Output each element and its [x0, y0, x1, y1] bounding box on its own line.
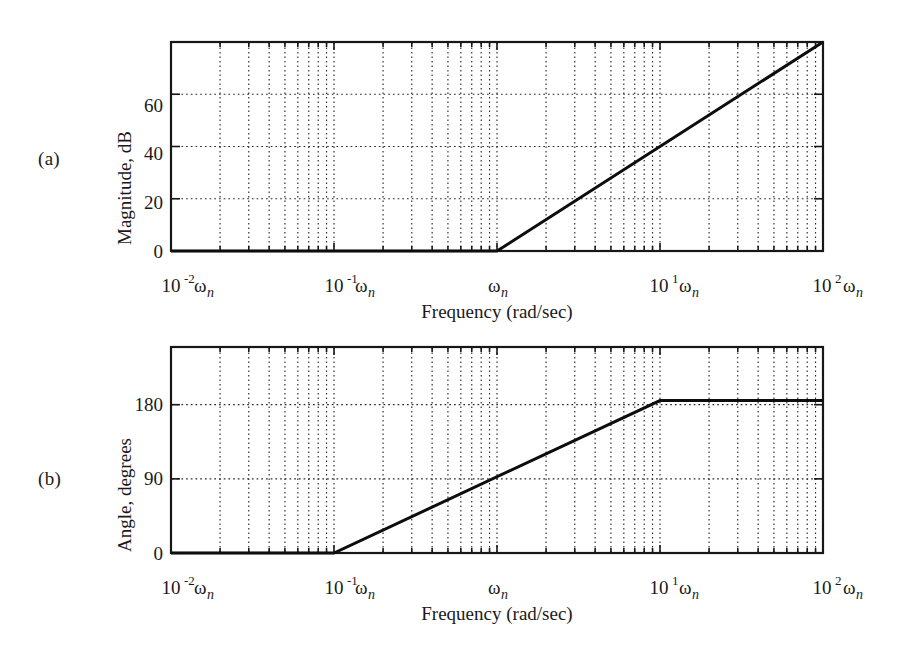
- svg-text:10: 10: [162, 577, 181, 598]
- svg-text:n: n: [856, 587, 863, 602]
- svg-text:ω: ω: [679, 275, 692, 296]
- phase-xtick-label-2: ω n: [488, 577, 508, 602]
- phase-plot-frame: [171, 347, 823, 553]
- magnitude-xtick-label-3: 10 1 ω n: [650, 271, 700, 300]
- svg-text:1: 1: [672, 271, 679, 286]
- svg-text:ω: ω: [355, 577, 368, 598]
- svg-text:ω: ω: [355, 275, 368, 296]
- svg-text:n: n: [368, 587, 375, 602]
- svg-text:n: n: [692, 285, 699, 300]
- svg-text:n: n: [501, 285, 508, 300]
- svg-text:n: n: [207, 587, 214, 602]
- phase-xtick-label-4: 10 2 ω n: [813, 573, 864, 602]
- phase-ytick-90: 90: [144, 468, 163, 489]
- svg-text:ω: ω: [488, 275, 501, 296]
- svg-text:10: 10: [162, 275, 181, 296]
- phase-asymptote-curve: [171, 401, 823, 553]
- magnitude-ytick-20: 20: [144, 192, 163, 213]
- phase-xtick-label-1: 10 -1 ω n: [325, 573, 376, 602]
- phase-tickmarks: [171, 347, 823, 553]
- magnitude-ytick-40: 40: [144, 143, 163, 164]
- phase-ytick-0: 0: [154, 543, 164, 564]
- bode-figure: (a) (b) 0 20 40 60 Magnitude, dB 10 -2 ω…: [0, 0, 898, 652]
- svg-text:10: 10: [813, 577, 832, 598]
- phase-vertical-gridlines: [220, 348, 815, 552]
- magnitude-xtick-label-4: 10 2 ω n: [813, 271, 864, 300]
- svg-text:n: n: [856, 285, 863, 300]
- svg-text:10: 10: [325, 577, 344, 598]
- magnitude-plot: 0 20 40 60 Magnitude, dB 10 -2 ω n 10 -1…: [0, 0, 898, 330]
- svg-text:ω: ω: [679, 577, 692, 598]
- svg-text:ω: ω: [488, 577, 501, 598]
- phase-xaxis-title: Frequency (rad/sec): [421, 603, 572, 625]
- svg-text:2: 2: [835, 573, 842, 588]
- magnitude-ytick-60: 60: [144, 95, 163, 116]
- magnitude-ytick-0: 0: [154, 241, 164, 262]
- phase-xtick-label-3: 10 1 ω n: [650, 573, 700, 602]
- svg-text:10: 10: [650, 577, 669, 598]
- magnitude-xtick-label-0: 10 -2 ω n: [162, 271, 215, 300]
- svg-text:ω: ω: [194, 577, 207, 598]
- phase-xtick-label-0: 10 -2 ω n: [162, 573, 215, 602]
- svg-text:n: n: [501, 587, 508, 602]
- svg-text:n: n: [368, 285, 375, 300]
- svg-text:10: 10: [650, 275, 669, 296]
- phase-ytick-180: 180: [135, 394, 164, 415]
- svg-text:10: 10: [325, 275, 344, 296]
- svg-text:n: n: [207, 285, 214, 300]
- svg-text:ω: ω: [194, 275, 207, 296]
- svg-text:2: 2: [835, 271, 842, 286]
- svg-text:1: 1: [672, 573, 679, 588]
- magnitude-xtick-label-1: 10 -1 ω n: [325, 271, 376, 300]
- magnitude-yaxis-title: Magnitude, dB: [114, 131, 135, 245]
- magnitude-xtick-label-2: ω n: [488, 275, 508, 300]
- svg-text:10: 10: [813, 275, 832, 296]
- phase-yaxis-title: Angle, degrees: [114, 438, 135, 552]
- svg-text:n: n: [692, 587, 699, 602]
- svg-text:ω: ω: [843, 275, 856, 296]
- svg-text:ω: ω: [843, 577, 856, 598]
- phase-plot: 0 90 180 Angle, degrees 10 -2 ω n 10 -1 …: [0, 320, 898, 652]
